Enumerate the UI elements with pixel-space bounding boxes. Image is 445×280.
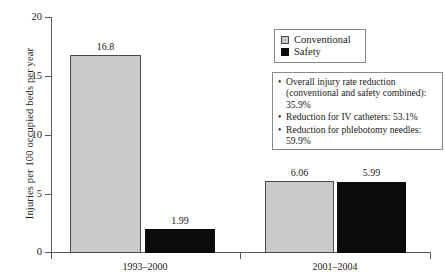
annotation-text-iv-catheters: Reduction for IV catheters: 53.1%	[286, 111, 418, 122]
bar-value-safety-2001-2004: 5.99	[337, 167, 406, 178]
x-tick-mark-right	[430, 253, 431, 259]
y-tick-mark-10	[45, 135, 52, 136]
annotation-text-phlebotomy-needles: Reduction for phlebotomy needles: 59.9%	[286, 124, 421, 146]
annotation-item-phlebotomy-needles: • Reduction for phlebotomy needles: 59.9…	[277, 124, 438, 147]
x-group-label-1993-2000: 1993–2000	[95, 261, 195, 272]
legend-item-conventional[interactable]: Conventional	[281, 34, 360, 46]
y-tick-mark-15	[45, 76, 52, 77]
y-tick-label-5: 5	[2, 189, 42, 200]
legend-swatch-safety-icon	[281, 48, 289, 56]
annotation-text-overall: Overall injury rate reduction (conventio…	[286, 76, 426, 110]
x-group-label-2001-2004: 2001–2004	[285, 261, 385, 272]
bar-value-conventional-1993-2000: 16.8	[70, 41, 141, 52]
annotation-box: • Overall injury rate reduction (convent…	[272, 72, 443, 150]
bar-value-conventional-2001-2004: 6.06	[265, 167, 334, 178]
bar-safety-2001-2004[interactable]	[337, 182, 406, 253]
legend-item-safety[interactable]: Safety	[281, 46, 360, 58]
y-tick-label-10: 10	[2, 130, 42, 141]
legend-label-conventional: Conventional	[294, 34, 351, 46]
y-tick-mark-5	[45, 194, 52, 195]
x-tick-mark-middle	[240, 253, 241, 259]
y-tick-mark-20	[45, 17, 52, 18]
y-tick-label-15: 15	[2, 71, 42, 82]
legend: Conventional Safety	[274, 29, 366, 63]
legend-swatch-conventional-icon	[281, 36, 289, 44]
bar-conventional-1993-2000[interactable]	[70, 55, 141, 253]
bar-chart: Injuries per 100 occupied beds per year …	[0, 0, 445, 280]
bar-value-safety-1993-2000: 1.99	[145, 215, 215, 226]
annotation-item-iv-catheters: • Reduction for IV catheters: 53.1%	[277, 111, 438, 122]
bullet-icon: •	[278, 124, 281, 135]
bullet-icon: •	[278, 111, 281, 122]
annotation-item-overall: • Overall injury rate reduction (convent…	[277, 76, 438, 110]
legend-label-safety: Safety	[294, 46, 321, 58]
y-tick-label-20: 20	[2, 12, 42, 23]
y-tick-label-0: 0	[2, 247, 42, 258]
bar-safety-1993-2000[interactable]	[145, 229, 215, 253]
bullet-icon: •	[278, 76, 281, 87]
x-tick-mark-left	[51, 253, 52, 259]
bar-conventional-2001-2004[interactable]	[265, 181, 334, 253]
